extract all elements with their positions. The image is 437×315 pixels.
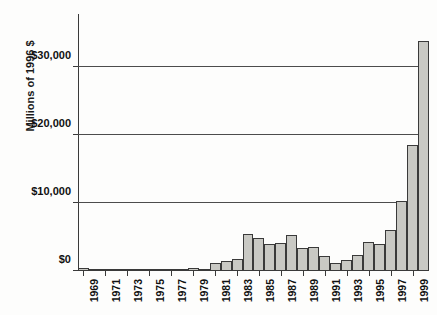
x-tick-mark — [413, 271, 414, 276]
x-tick-mark — [105, 271, 106, 276]
bar — [286, 235, 297, 271]
x-tick-label: 1979 — [198, 279, 210, 302]
bar — [418, 41, 429, 271]
bar — [253, 238, 264, 271]
bar — [319, 256, 330, 271]
bar — [363, 242, 374, 271]
x-tick-label: 1981 — [220, 279, 232, 302]
bar-series — [78, 14, 418, 271]
x-tick-mark — [83, 271, 84, 276]
y-tick-label: $30,000 — [31, 49, 71, 61]
bar — [385, 230, 396, 271]
x-tick-mark — [391, 271, 392, 276]
x-tick-mark — [325, 271, 326, 276]
bar — [308, 247, 319, 271]
x-tick-mark — [149, 271, 150, 276]
bar — [297, 248, 308, 271]
x-tick-mark — [259, 271, 260, 276]
bar — [275, 243, 286, 271]
x-tick-mark — [215, 271, 216, 276]
x-tick-label: 1985 — [264, 279, 276, 302]
x-axis-line — [78, 270, 418, 271]
x-tick-mark — [171, 271, 172, 276]
chart-figure: Millions of 1996 $ $0$10,000$20,000$30,0… — [0, 0, 437, 315]
x-tick-mark — [281, 271, 282, 276]
y-tick-label: $10,000 — [31, 185, 71, 197]
x-tick-mark — [369, 271, 370, 276]
y-tick-label: $0 — [59, 253, 71, 265]
x-tick-mark — [193, 271, 194, 276]
x-tick-label: 1993 — [352, 279, 364, 302]
plot-area: $0$10,000$20,000$30,000 1969197119731975… — [78, 14, 418, 271]
y-axis-title: Millions of 1996 $ — [24, 6, 36, 166]
bar — [396, 201, 407, 271]
bar — [407, 145, 418, 271]
x-tick-label: 1983 — [242, 279, 254, 302]
x-tick-label: 1969 — [88, 279, 100, 302]
x-tick-label: 1977 — [176, 279, 188, 302]
x-tick-label: 1973 — [132, 279, 144, 302]
x-tick-label: 1997 — [396, 279, 408, 302]
x-tick-mark — [237, 271, 238, 276]
x-tick-label: 1999 — [418, 279, 430, 302]
x-tick-mark — [303, 271, 304, 276]
bar — [374, 244, 385, 271]
bar — [264, 244, 275, 271]
x-tick-mark — [347, 271, 348, 276]
y-tick-label: $20,000 — [31, 117, 71, 129]
x-tick-label: 1995 — [374, 279, 386, 302]
x-tick-label: 1991 — [330, 279, 342, 302]
x-tick-label: 1989 — [308, 279, 320, 302]
x-tick-mark — [127, 271, 128, 276]
x-tick-label: 1971 — [110, 279, 122, 302]
x-tick-label: 1987 — [286, 279, 298, 302]
x-tick-label: 1975 — [154, 279, 166, 302]
bar — [243, 234, 254, 271]
bar — [352, 255, 363, 271]
